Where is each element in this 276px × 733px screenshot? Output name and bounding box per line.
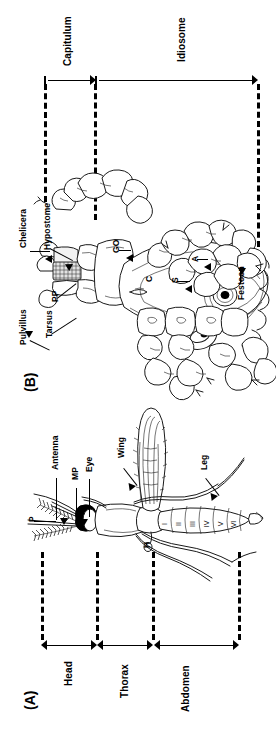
label-leg: Leg <box>199 455 209 470</box>
boundary-head-start <box>41 552 44 640</box>
leader-spiracle <box>177 281 190 282</box>
capitulum-measure-arrow <box>44 75 96 85</box>
leader-head-go <box>126 254 133 262</box>
region-label-thorax: Thorax <box>119 664 130 698</box>
svg-text:II: II <box>175 522 182 526</box>
panel-tag-b: (B) <box>22 373 38 392</box>
leader-genital-opening <box>119 250 131 251</box>
region-label-abdomen: Abdomen <box>180 665 191 712</box>
tick-drawing <box>20 96 272 396</box>
leader-mp <box>76 488 77 521</box>
leader-eye <box>89 479 90 517</box>
svg-text:V: V <box>217 521 224 526</box>
leader-head-anus <box>204 263 211 271</box>
leader-proboscis <box>34 521 56 522</box>
label-haltere: H <box>142 542 152 548</box>
svg-text:IV: IV <box>203 520 210 527</box>
svg-text:I: I <box>161 523 168 525</box>
svg-text:III: III <box>189 521 196 527</box>
label-chelicera: Chelicera <box>18 209 28 248</box>
panel-tag-a: (A) <box>22 691 38 710</box>
boundary-head-thorax <box>96 552 99 640</box>
region-label-head: Head <box>63 661 74 686</box>
label-wing: Wing <box>116 437 126 458</box>
leader-antenna <box>56 478 57 520</box>
leader-head-mp <box>80 519 88 526</box>
region-label-capitulum: Capitulum <box>62 16 73 66</box>
thorax-measure-arrow <box>97 640 153 650</box>
leader-head-spiracle <box>185 285 192 293</box>
leader-anus <box>197 259 208 260</box>
idiosome-measure-arrow <box>95 75 258 85</box>
leader-chelicera <box>30 251 50 252</box>
label-hypostome: Hypostome <box>42 203 52 250</box>
label-coxa: C <box>144 276 154 282</box>
boundary-thorax-abdomen <box>152 552 155 640</box>
label-maxillary-palp: MP <box>70 467 80 480</box>
label-antenna: Antenna <box>50 435 60 470</box>
leader-head-festoon <box>238 268 246 275</box>
leader-head-antenna <box>60 518 68 525</box>
label-pulvillus: Pulvillus <box>18 309 28 345</box>
region-label-idiosome: Idiosome <box>176 17 187 62</box>
figure-canvas: Capitulum Idiosome <box>0 0 276 733</box>
abdomen-measure-arrow <box>154 640 239 650</box>
label-eye: Eye <box>84 457 94 472</box>
mosquito-drawing: I II III IV V VI <box>10 400 266 560</box>
leader-head-chelicera <box>45 255 52 263</box>
boundary-abdomen-end <box>238 552 241 640</box>
svg-text:VI: VI <box>230 521 237 528</box>
head-measure-arrow <box>41 640 97 650</box>
